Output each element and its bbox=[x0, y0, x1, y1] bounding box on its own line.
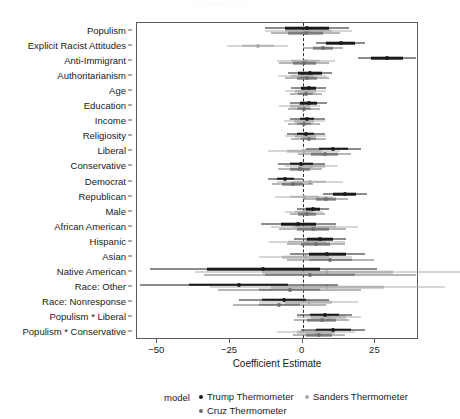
y-axis-label: Income bbox=[95, 115, 126, 126]
estimate-point bbox=[318, 237, 322, 241]
estimate-point bbox=[328, 258, 332, 262]
legend: model Trump ThermometerSanders Thermomet… bbox=[0, 383, 433, 417]
y-axis-tick bbox=[128, 331, 132, 332]
x-axis-tick-label: 25 bbox=[369, 344, 380, 355]
estimate-point bbox=[291, 182, 295, 186]
y-axis-label: Education bbox=[84, 100, 126, 111]
y-axis-tick bbox=[128, 105, 132, 106]
estimate-point bbox=[304, 92, 308, 96]
y-axis-tick bbox=[128, 165, 132, 166]
y-axis-tick bbox=[128, 180, 132, 181]
y-axis-tick bbox=[128, 29, 132, 30]
y-axis-tick bbox=[128, 59, 132, 60]
estimate-point bbox=[307, 137, 311, 141]
legend-marker bbox=[199, 395, 203, 399]
y-axis-tick bbox=[128, 44, 132, 45]
estimate-point bbox=[331, 328, 335, 332]
estimate-point bbox=[237, 283, 241, 287]
y-axis-label: Populism * Conservative bbox=[23, 326, 127, 337]
estimate-point bbox=[304, 132, 308, 136]
estimate-point bbox=[339, 41, 343, 45]
x-axis-tick-label: 0 bbox=[299, 344, 304, 355]
estimate-point bbox=[307, 101, 311, 105]
estimate-point bbox=[302, 122, 306, 126]
y-axis-tick bbox=[128, 255, 132, 256]
y-axis-labels: PopulismExplicit Racist AttitudesAnti-Im… bbox=[0, 22, 132, 339]
y-axis-tick bbox=[128, 286, 132, 287]
estimate-point bbox=[288, 288, 292, 292]
y-axis-label: Anti-Immigrant bbox=[64, 54, 126, 65]
legend-label[interactable]: Trump Thermometer bbox=[207, 391, 294, 402]
estimate-point bbox=[305, 26, 309, 30]
y-axis-label: Hispanic bbox=[90, 235, 126, 246]
y-axis-label: Race: Nonresponse bbox=[42, 296, 126, 307]
y-axis-label: Conservative bbox=[71, 160, 126, 171]
x-axis-title: Coefficient Estimate bbox=[136, 358, 418, 369]
estimate-point bbox=[305, 117, 309, 121]
chart-title: Coefficient Plot bbox=[0, 0, 433, 8]
x-axis-tick-label: −50 bbox=[148, 344, 164, 355]
y-axis-label: African American bbox=[54, 220, 126, 231]
estimate-point bbox=[317, 333, 321, 337]
y-axis-tick bbox=[128, 89, 132, 90]
y-axis-label: Republican bbox=[78, 190, 126, 201]
y-axis-tick bbox=[128, 225, 132, 226]
estimate-point bbox=[343, 192, 347, 196]
x-axis-tick bbox=[302, 339, 303, 343]
y-axis-tick bbox=[128, 301, 132, 302]
estimate-point bbox=[305, 212, 309, 216]
estimate-point bbox=[311, 207, 315, 211]
estimate-point bbox=[323, 152, 327, 156]
estimate-point bbox=[320, 318, 324, 322]
legend-label[interactable]: Sanders Thermometer bbox=[313, 391, 408, 402]
y-axis-tick bbox=[128, 271, 132, 272]
y-axis-tick bbox=[128, 120, 132, 121]
y-axis-label: Age bbox=[109, 84, 126, 95]
estimate-point bbox=[311, 227, 315, 231]
estimate-point bbox=[314, 242, 318, 246]
plot-panel bbox=[136, 22, 418, 339]
y-axis-label: Male bbox=[105, 205, 126, 216]
estimate-point bbox=[298, 167, 302, 171]
y-axis-tick bbox=[128, 316, 132, 317]
y-axis-label: Authoritarianism bbox=[57, 69, 126, 80]
estimate-point bbox=[256, 44, 260, 48]
estimate-point bbox=[277, 303, 281, 307]
estimate-point bbox=[308, 273, 312, 277]
x-axis-tick bbox=[374, 339, 375, 343]
y-axis-tick bbox=[128, 240, 132, 241]
estimate-point bbox=[302, 107, 306, 111]
estimate-point bbox=[282, 298, 286, 302]
y-axis-tick bbox=[128, 150, 132, 151]
legend-label[interactable]: Cruz Thermometer bbox=[207, 405, 287, 416]
estimate-point bbox=[385, 56, 389, 60]
legend-marker bbox=[305, 395, 309, 399]
estimate-point bbox=[304, 31, 308, 35]
x-axis-tick bbox=[229, 339, 230, 343]
y-axis-label: Populism * Liberal bbox=[49, 311, 126, 322]
y-axis-label: Religiosity bbox=[83, 130, 126, 141]
y-axis-label: Liberal bbox=[97, 145, 126, 156]
estimate-point bbox=[321, 46, 325, 50]
y-axis-tick bbox=[128, 74, 132, 75]
estimate-point bbox=[331, 147, 335, 151]
y-axis-label: Explicit Racist Attitudes bbox=[28, 39, 126, 50]
estimate-point bbox=[296, 222, 300, 226]
x-axis-tick-labels: −50−25025 bbox=[136, 344, 418, 358]
y-axis-label: Native American bbox=[57, 266, 126, 277]
estimate-point bbox=[299, 162, 303, 166]
estimate-point bbox=[324, 197, 328, 201]
estimate-point bbox=[283, 177, 287, 181]
x-axis-tick-label: −25 bbox=[221, 344, 237, 355]
x-axis-tick bbox=[156, 339, 157, 343]
y-axis-label: Asian bbox=[102, 250, 126, 261]
legend-marker bbox=[199, 409, 203, 413]
estimate-point bbox=[308, 71, 312, 75]
estimate-point bbox=[302, 61, 306, 65]
estimate-point bbox=[305, 76, 309, 80]
y-axis-tick bbox=[128, 135, 132, 136]
estimate-point bbox=[323, 313, 327, 317]
y-axis-label: Democrat bbox=[85, 175, 126, 186]
estimate-point bbox=[325, 252, 329, 256]
